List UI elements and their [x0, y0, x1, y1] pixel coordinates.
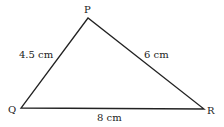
triangle-diagram: P Q R 4.5 cm 6 cm 8 cm — [0, 0, 224, 127]
side-label-qr: 8 cm — [97, 112, 122, 123]
side-label-pq: 4.5 cm — [19, 49, 54, 60]
vertex-label-r: R — [207, 105, 215, 116]
vertex-label-q: Q — [8, 104, 16, 115]
triangle-pqr — [21, 18, 204, 109]
side-label-pr: 6 cm — [144, 49, 169, 60]
vertex-label-p: P — [84, 4, 91, 15]
